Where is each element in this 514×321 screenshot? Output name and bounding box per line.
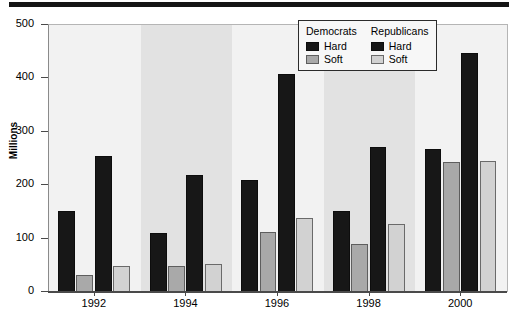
bar: [461, 53, 478, 292]
bar: [95, 156, 112, 292]
y-axis-tick: [41, 77, 48, 78]
bar: [370, 147, 387, 292]
plot-area: [48, 24, 508, 292]
legend-item-republicans-hard: Hard: [371, 40, 429, 52]
legend-label-republicans-hard: Hard: [389, 40, 412, 52]
legend-item-democrats-soft: Soft: [306, 53, 357, 65]
legend-label-democrats-hard: Hard: [324, 40, 347, 52]
legend-label-republicans-soft: Soft: [389, 53, 408, 65]
bar: [333, 211, 350, 292]
y-axis-tick-label: 300: [0, 125, 34, 136]
legend-label-democrats-soft: Soft: [324, 53, 343, 65]
legend-group-republicans: Republicans Hard Soft: [371, 25, 429, 65]
y-axis-tick: [41, 238, 48, 239]
x-axis-tick-label: 1992: [64, 297, 124, 309]
legend-group-democrats: Democrats Hard Soft: [306, 25, 357, 65]
x-axis-tick-label: 1998: [339, 297, 399, 309]
legend-item-democrats-hard: Hard: [306, 40, 357, 52]
legend-swatch-democrats-hard: [306, 42, 319, 51]
bar: [241, 180, 258, 292]
bar: [443, 162, 460, 292]
top-rule-divider: [9, 2, 509, 7]
y-axis-tick: [41, 184, 48, 185]
bar: [260, 232, 277, 292]
bar: [76, 275, 93, 292]
x-axis-tick-label: 1994: [155, 297, 215, 309]
y-axis-tick: [41, 131, 48, 132]
bar: [425, 149, 442, 292]
bar-series-container: [49, 25, 507, 292]
bar-chart-figure: Millions 5004003002001000 19921994199619…: [0, 0, 514, 321]
x-axis-tick-label: 1996: [247, 297, 307, 309]
y-axis-tick-label: 200: [0, 178, 34, 189]
x-axis-tick: [277, 291, 278, 296]
bar: [186, 175, 203, 292]
bar: [168, 266, 185, 292]
y-axis-tick-label: 400: [0, 71, 34, 82]
legend-swatch-democrats-soft: [306, 55, 319, 64]
bar: [278, 74, 295, 292]
bar: [205, 264, 222, 292]
bar: [113, 266, 130, 292]
y-axis-tick-label: 100: [0, 232, 34, 243]
y-axis-tick-label: 0: [0, 285, 34, 296]
x-axis-tick: [460, 291, 461, 296]
bar: [150, 233, 167, 292]
bar: [351, 244, 368, 292]
legend-item-republicans-soft: Soft: [371, 53, 429, 65]
x-axis-tick: [369, 291, 370, 296]
legend-group-title: Democrats: [306, 25, 357, 37]
legend: Democrats Hard Soft Republicans Hard Sof…: [298, 20, 437, 71]
y-axis-tick: [41, 24, 48, 25]
legend-swatch-republicans-soft: [371, 55, 384, 64]
bar: [58, 211, 75, 292]
bar: [388, 224, 405, 292]
legend-swatch-republicans-hard: [371, 42, 384, 51]
x-axis-tick-label: 2000: [430, 297, 490, 309]
legend-group-title: Republicans: [371, 25, 429, 37]
y-axis-title: Millions: [8, 106, 19, 176]
x-axis-tick: [185, 291, 186, 296]
bar: [296, 218, 313, 292]
bar: [480, 161, 497, 292]
y-axis-tick: [41, 291, 48, 292]
x-axis-tick: [94, 291, 95, 296]
y-axis-tick-label: 500: [0, 18, 34, 29]
